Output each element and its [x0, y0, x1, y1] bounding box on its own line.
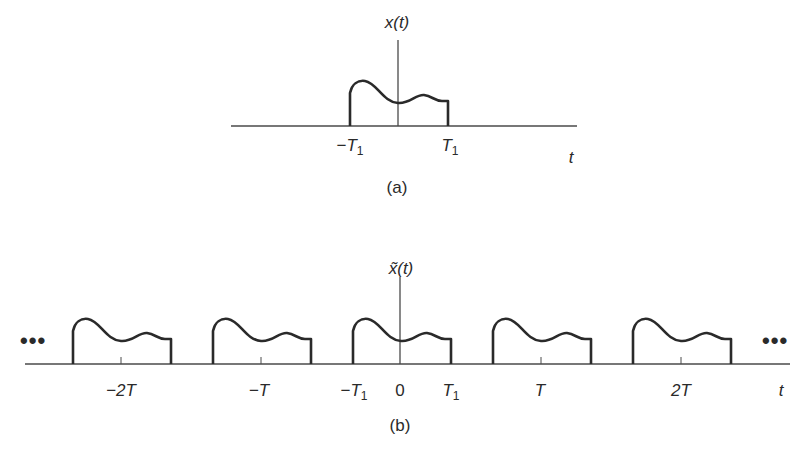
signal-label-b: x̃(t)	[388, 259, 414, 278]
signal-label-a: x(t)	[384, 13, 410, 32]
caption-b: (b)	[390, 416, 411, 435]
panel-a: x(t) −T1 T1 t (a)	[231, 13, 577, 197]
tick-label-neg-T1-b: −T1	[340, 381, 367, 403]
tick-label-T: T	[535, 381, 547, 400]
tick-label-2T: 2T	[670, 381, 692, 400]
tick-label-neg-T1: −T1	[336, 136, 363, 158]
ellipsis-left: •••	[20, 328, 46, 353]
tick-label-T1: T1	[441, 136, 458, 158]
pulse-period-T	[493, 319, 591, 364]
pulse-period-zero	[353, 319, 451, 364]
tick-label-T1-b: T1	[442, 381, 459, 403]
ellipsis-right: •••	[762, 328, 788, 353]
aperiodic-pulse	[350, 81, 448, 126]
axis-label-t-b: t	[779, 381, 785, 400]
tick-label-neg-2T: −2T	[106, 381, 137, 400]
caption-a: (a)	[387, 178, 408, 197]
panel-b: x̃(t) ••• ••• −2T −T −T1 0 T1 T 2T t (b)	[20, 259, 790, 435]
periodic-pulses	[73, 319, 731, 364]
axis-label-t-a: t	[569, 148, 575, 167]
tick-label-zero: 0	[395, 381, 404, 400]
period-ticks	[121, 357, 681, 364]
tick-label-neg-T: −T	[249, 381, 271, 400]
pulse-period-neg-T	[213, 319, 311, 364]
figure: x(t) −T1 T1 t (a) x̃(t) ••• ••• −2T −T −…	[0, 0, 810, 464]
pulse-period-2T	[633, 319, 731, 364]
pulse-period-neg-2T	[73, 319, 171, 364]
